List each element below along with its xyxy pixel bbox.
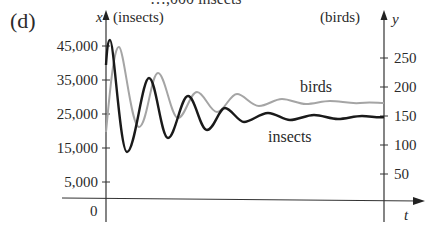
t-axis-label: t bbox=[404, 207, 409, 223]
right-tick-label: 50 bbox=[394, 166, 409, 182]
birds-series-label: birds bbox=[300, 78, 332, 95]
left-tick-label: 45,000 bbox=[57, 38, 98, 54]
right-axis-variable: y bbox=[390, 11, 399, 27]
left-tick-label: 5,000 bbox=[64, 174, 98, 190]
right-ticks: 250 200 150 100 50 bbox=[380, 50, 417, 182]
right-tick-label: 100 bbox=[394, 137, 417, 153]
right-tick-label: 250 bbox=[394, 50, 417, 66]
right-tick-label: 150 bbox=[394, 108, 417, 124]
origin-label: 0 bbox=[90, 203, 98, 219]
figure-label: (d) bbox=[10, 8, 36, 33]
left-axis-arrow-icon bbox=[103, 10, 110, 20]
left-tick-label: 25,000 bbox=[57, 106, 98, 122]
t-axis bbox=[62, 198, 420, 201]
t-axis-arrow-icon bbox=[413, 197, 425, 205]
left-axis-variable: x bbox=[95, 9, 103, 25]
right-tick-label: 200 bbox=[394, 79, 417, 95]
left-ticks: 45,000 35,000 25,000 15,000 5,000 bbox=[57, 38, 110, 190]
chart: (d) x (insects) (birds) y t 0 45,000 35,… bbox=[0, 0, 432, 228]
insects-curve bbox=[106, 40, 384, 152]
left-axis-label: (insects) bbox=[113, 9, 164, 26]
left-tick-label: 35,000 bbox=[57, 72, 98, 88]
right-axis-label: (birds) bbox=[320, 9, 360, 26]
left-tick-label: 15,000 bbox=[57, 140, 98, 156]
insects-series-label: insects bbox=[268, 128, 312, 145]
right-axis-arrow-icon bbox=[381, 10, 388, 20]
